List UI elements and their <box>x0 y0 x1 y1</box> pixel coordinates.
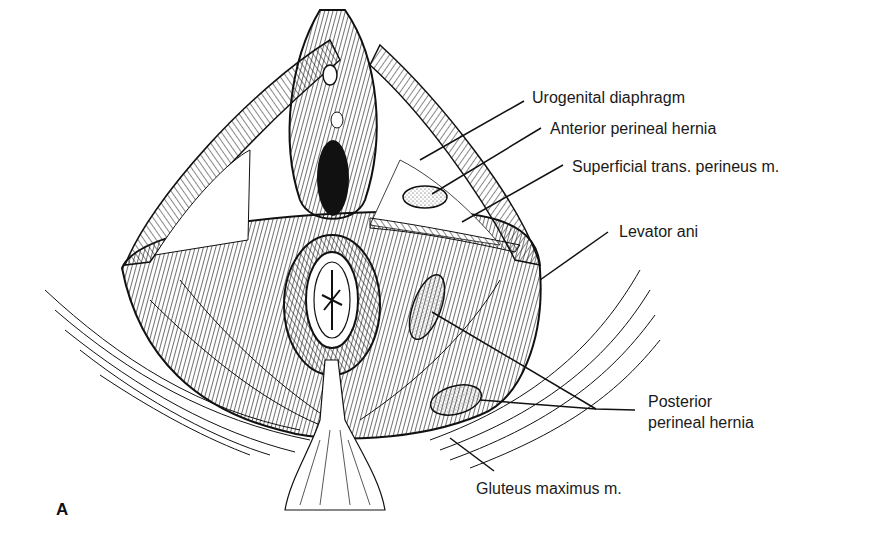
vaginal-orifice <box>317 140 349 216</box>
label-posterior-perineal-hernia-line2: perineal hernia <box>648 414 754 432</box>
label-urogenital-diaphragm: Urogenital diaphragm <box>532 89 685 107</box>
label-superficial-trans-perineus: Superficial trans. perineus m. <box>572 158 779 176</box>
perineal-hernia-diagram: Urogenital diaphragm Anterior perineal h… <box>0 0 877 543</box>
clitoris <box>323 65 337 85</box>
anatomical-illustration <box>0 0 877 543</box>
panel-letter: A <box>56 500 68 520</box>
label-anterior-perineal-hernia: Anterior perineal hernia <box>550 120 716 138</box>
label-posterior-perineal-hernia-line1: Posterior <box>648 393 712 411</box>
label-gluteus-maximus: Gluteus maximus m. <box>476 480 622 498</box>
urethral-meatus <box>331 112 343 128</box>
label-levator-ani: Levator ani <box>619 223 698 241</box>
